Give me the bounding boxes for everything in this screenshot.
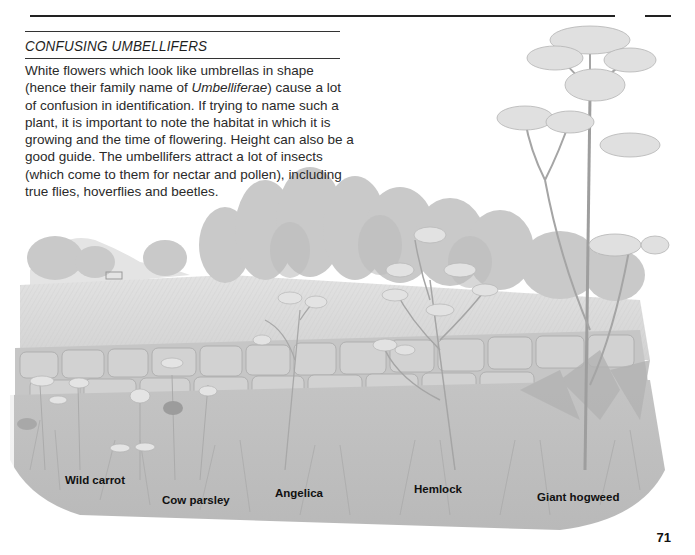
label-hemlock: Hemlock <box>414 483 462 495</box>
label-wild-carrot: Wild carrot <box>65 474 125 486</box>
label-cow-parsley: Cow parsley <box>162 494 230 506</box>
family-name: Umbelliferae <box>192 80 268 95</box>
body-paragraph: White flowers which look like umbrellas … <box>25 62 355 200</box>
page-number: 71 <box>657 530 671 545</box>
label-giant-hogweed: Giant hogweed <box>537 491 619 503</box>
label-angelica: Angelica <box>275 487 323 499</box>
body-text-part2: ) cause a lot of confusion in identifica… <box>25 80 354 199</box>
